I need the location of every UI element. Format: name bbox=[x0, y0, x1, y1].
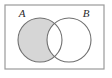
set-label-b: B bbox=[83, 7, 90, 19]
set-label-a: A bbox=[18, 7, 26, 19]
venn-diagram-figure: A B bbox=[0, 0, 112, 78]
venn-diagram-canvas: A B bbox=[0, 0, 112, 78]
